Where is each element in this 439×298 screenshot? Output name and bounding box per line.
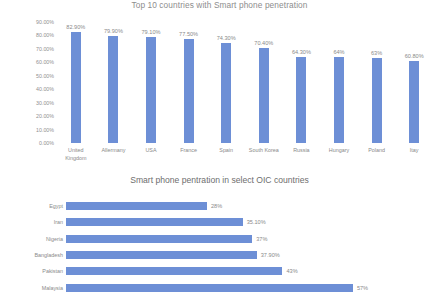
chart1-value-label: 64.30% <box>292 49 311 55</box>
chart1-y-tick: 20.00% <box>36 113 54 119</box>
chart1-bar <box>108 36 118 143</box>
chart1-category-label: United Kingdom <box>57 147 95 162</box>
chart2-bar <box>66 202 207 210</box>
chart1-y-tick: 10.00% <box>36 127 54 133</box>
chart2-bar <box>66 218 243 226</box>
chart2-value-label: 37% <box>256 236 267 242</box>
chart2-value-label: 57% <box>357 285 368 291</box>
chart1-category-label: Spain <box>207 147 245 155</box>
chart2-bar <box>66 284 353 292</box>
chart1-value-label: 64% <box>333 49 344 55</box>
chart2-title: Smart phone pentration in select OIC cou… <box>0 175 439 185</box>
chart1-column: 74.30%Spain <box>207 22 245 143</box>
chart1-column: 77.50%France <box>170 22 208 143</box>
chart2-category-label: Pakistan <box>42 268 63 274</box>
chart2-bar-row: Iran35.10% <box>66 214 368 230</box>
chart2-category-label: Malaysia <box>42 285 63 291</box>
chart1-column: 60.80%Itay <box>395 22 433 143</box>
chart1-value-label: 79.10% <box>141 29 160 35</box>
chart1-y-tick: 40.00% <box>36 86 54 92</box>
chart1-y-tick: 60.00% <box>36 59 54 65</box>
chart1-value-label: 74.30% <box>217 35 236 41</box>
chart1-category-label: Itay <box>395 147 433 155</box>
chart1-bar <box>372 58 382 143</box>
chart2-bar <box>66 267 282 275</box>
chart1-bar <box>71 32 81 143</box>
chart1-value-label: 60.80% <box>405 53 424 59</box>
chart1-value-label: 63% <box>371 50 382 56</box>
chart1-category-label: USA <box>132 147 170 155</box>
chart2-category-label: Iran <box>54 219 63 225</box>
chart1-bar <box>259 48 269 143</box>
chart1-bar <box>334 57 344 143</box>
chart2-category-label: Nigeria <box>46 236 63 242</box>
chart1-category-label: Hungary <box>320 147 358 155</box>
chart2-bar-row: Nigeria37% <box>66 231 368 247</box>
chart1-bar <box>296 57 306 143</box>
chart1-category-label: Poland <box>358 147 396 155</box>
chart2-bar-row: Pakistan43% <box>66 263 368 279</box>
chart2-category-label: Egypt <box>49 203 63 209</box>
chart2-bar-row: Egypt28% <box>66 198 368 214</box>
column-chart-top10-countries: Top 10 countries with Smart phone penetr… <box>0 0 439 170</box>
chart1-column: 64%Hungary <box>320 22 358 143</box>
chart1-y-tick: 80.00% <box>36 32 54 38</box>
bar-chart-oic-countries: Smart phone pentration in select OIC cou… <box>0 170 439 298</box>
chart1-value-label: 82.90% <box>66 24 85 30</box>
chart2-value-label: 37.90% <box>261 252 280 258</box>
chart2-bar-row: Malaysia57% <box>66 280 368 296</box>
chart1-bar <box>409 61 419 143</box>
chart1-category-label: Allermany <box>94 147 132 155</box>
chart2-bar <box>66 235 252 243</box>
chart1-y-tick: 0.00% <box>39 140 54 146</box>
chart1-title: Top 10 countries with Smart phone penetr… <box>0 0 439 10</box>
chart2-bar <box>66 251 257 259</box>
chart1-column: 82.90%United Kingdom <box>57 22 95 143</box>
chart1-column: 64.30%Russia <box>283 22 321 143</box>
chart2-plot-area: Egypt28%Iran35.10%Nigeria37%Bangladesh37… <box>66 198 368 296</box>
chart1-y-tick: 30.00% <box>36 100 54 106</box>
chart1-bar <box>221 43 231 143</box>
chart1-value-label: 70.40% <box>254 40 273 46</box>
chart1-plot-area: 0.00%10.00%20.00%30.00%40.00%50.00%60.00… <box>57 22 433 143</box>
chart1-category-label: France <box>170 147 208 155</box>
chart1-category-label: South Korea <box>245 147 283 155</box>
chart1-y-tick: 90.00% <box>36 19 54 25</box>
chart2-category-label: Bangladesh <box>35 252 63 258</box>
chart2-value-label: 28% <box>211 203 222 209</box>
chart1-column: 79.10%USA <box>132 22 170 143</box>
chart1-y-tick: 50.00% <box>36 73 54 79</box>
chart1-category-label: Russia <box>282 147 320 155</box>
chart2-value-label: 35.10% <box>247 219 266 225</box>
chart2-bar-row: Bangladesh37.90% <box>66 247 368 263</box>
chart2-value-label: 43% <box>286 268 297 274</box>
chart1-column: 79.90%Allermany <box>95 22 133 143</box>
chart1-column: 63%Poland <box>358 22 396 143</box>
chart1-bar <box>146 37 156 143</box>
chart1-bar <box>184 39 194 143</box>
chart1-value-label: 77.50% <box>179 31 198 37</box>
chart1-y-tick: 70.00% <box>36 46 54 52</box>
chart1-value-label: 79.90% <box>104 28 123 34</box>
chart1-column: 70.40%South Korea <box>245 22 283 143</box>
